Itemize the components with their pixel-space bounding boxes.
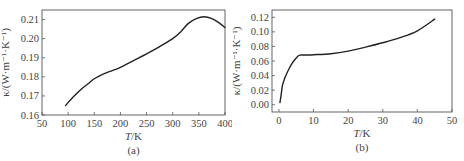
x-tick-label: 150	[86, 118, 102, 129]
x-tick-label: 200	[113, 118, 129, 129]
plot-frame	[42, 10, 225, 115]
x-tick-label: 50	[37, 118, 48, 129]
chart-b-svg: 0.000.020.040.060.080.100.1201020304050T…	[232, 0, 464, 161]
y-tick-label: 0.20	[21, 33, 39, 44]
y-tick-label: 0.04	[251, 70, 270, 81]
x-tick-label: 10	[308, 115, 319, 126]
y-tick-label: 0.10	[251, 26, 269, 37]
panel-caption: (b)	[356, 141, 369, 154]
y-tick-label: 0.12	[251, 12, 269, 23]
data-line	[280, 19, 435, 102]
x-tick-label: 40	[412, 115, 423, 126]
y-tick-label: 0.17	[21, 90, 39, 101]
y-axis-title: κ/(W·m⁻¹·K⁻¹)	[232, 26, 243, 95]
x-tick-label: 300	[165, 118, 181, 129]
y-tick-label: 0.00	[251, 99, 269, 110]
chart-a-svg: 0.160.170.180.190.200.215010015020025030…	[0, 0, 232, 161]
y-tick-label: 0.21	[21, 14, 39, 25]
data-line	[66, 17, 225, 106]
y-tick-label: 0.06	[251, 56, 269, 67]
y-tick-label: 0.02	[251, 85, 269, 96]
x-tick-label: 50	[447, 115, 458, 126]
x-tick-label: 100	[60, 118, 76, 129]
y-tick-label: 0.18	[21, 71, 39, 82]
x-tick-label: 350	[191, 118, 207, 129]
chart-panel-a: 0.160.170.180.190.200.215010015020025030…	[0, 0, 232, 161]
panel-caption: (a)	[127, 144, 140, 157]
y-tick-label: 0.08	[251, 41, 269, 52]
x-tick-label: 20	[343, 115, 354, 126]
x-tick-label: 400	[217, 118, 232, 129]
x-tick-label: 250	[139, 118, 155, 129]
chart-panel-b: 0.000.020.040.060.080.100.1201020304050T…	[232, 0, 464, 161]
x-axis-title: T/K	[353, 127, 370, 139]
x-tick-label: 30	[378, 115, 389, 126]
y-axis-title: κ/(W·m⁻¹·K⁻¹)	[0, 28, 12, 97]
x-tick-label: 0	[276, 115, 281, 126]
y-tick-label: 0.19	[21, 52, 39, 63]
x-axis-title: T/K	[125, 130, 142, 142]
